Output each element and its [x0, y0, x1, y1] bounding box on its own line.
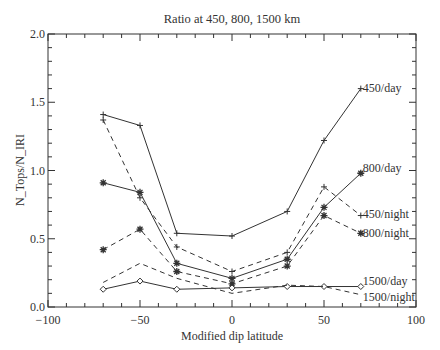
diamond-marker	[174, 286, 180, 292]
diamond-marker	[137, 278, 143, 284]
x-axis-label: Modified dip latitude	[181, 329, 283, 343]
series-label: 450/night	[363, 207, 410, 221]
plus-marker	[100, 117, 106, 123]
plus-marker	[100, 112, 106, 118]
plus-marker	[174, 230, 180, 236]
x-tick-label: −100	[36, 313, 61, 327]
series-label: 800/night	[363, 226, 410, 240]
asterisk-marker	[284, 256, 291, 263]
series-labels: 450/day450/night800/day800/night1500/day…	[363, 81, 416, 304]
y-axis-label: N_Tops/N_IRI	[13, 134, 27, 206]
asterisk-marker	[100, 246, 107, 253]
asterisk-marker	[321, 212, 328, 219]
y-tick-label: 1.0	[30, 164, 45, 178]
x-tick-label: 0	[229, 313, 235, 327]
x-tick-label: 100	[407, 313, 425, 327]
line-chart: Ratio at 450, 800, 1500 km −100−50050100…	[0, 0, 440, 350]
diamond-marker	[100, 286, 106, 292]
y-tick-label: 2.0	[30, 27, 45, 41]
plus-marker	[284, 208, 290, 214]
plus-marker	[137, 122, 143, 128]
series-label: 1500/day	[363, 274, 408, 288]
series-label: 800/day	[363, 161, 402, 175]
plus-marker	[229, 269, 235, 275]
y-tick-label: 0.0	[30, 300, 45, 314]
y-tick-label: 1.5	[30, 95, 45, 109]
series-label: 450/day	[363, 81, 402, 95]
asterisk-marker	[173, 260, 180, 267]
series-layer	[100, 86, 365, 295]
asterisk-marker	[284, 263, 291, 270]
x-tick-label: 50	[318, 313, 330, 327]
asterisk-marker	[321, 204, 328, 211]
x-tick-label: −50	[131, 313, 150, 327]
series-label: 1500/night	[363, 290, 416, 304]
plus-marker	[284, 249, 290, 255]
diamond-marker	[284, 284, 290, 290]
chart: Ratio at 450, 800, 1500 km −100−50050100…	[0, 0, 440, 350]
asterisk-marker	[137, 189, 144, 196]
asterisk-marker	[137, 226, 144, 233]
chart-title: Ratio at 450, 800, 1500 km	[164, 12, 301, 26]
asterisk-marker	[173, 268, 180, 275]
y-tick-label: 0.5	[30, 232, 45, 246]
asterisk-marker	[100, 179, 107, 186]
plus-marker	[229, 233, 235, 239]
